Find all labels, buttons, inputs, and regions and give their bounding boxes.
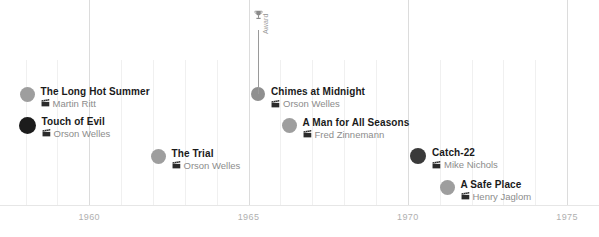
axis-line bbox=[0, 205, 599, 206]
gridline-1970 bbox=[408, 0, 409, 205]
timeline-event[interactable]: The Long Hot SummerMartin Ritt bbox=[20, 87, 150, 110]
event-director-name: Mike Nichols bbox=[444, 160, 498, 170]
gridline-1964 bbox=[217, 60, 218, 205]
event-director: Martin Ritt bbox=[41, 98, 150, 109]
timeline-event[interactable]: Catch-22Mike Nichols bbox=[410, 148, 498, 171]
event-director: Henry Jaglom bbox=[461, 191, 532, 202]
event-text: Chimes at MidnightOrson Welles bbox=[271, 87, 365, 110]
event-director-name: Martin Ritt bbox=[53, 99, 96, 109]
clapperboard-icon bbox=[271, 99, 280, 110]
event-director: Orson Welles bbox=[172, 160, 241, 171]
event-title: Catch-22 bbox=[432, 148, 498, 159]
event-dot[interactable] bbox=[19, 117, 36, 134]
event-text: The TrialOrson Welles bbox=[172, 149, 241, 172]
event-dot[interactable] bbox=[410, 148, 426, 164]
event-director-name: Henry Jaglom bbox=[473, 192, 532, 202]
clapperboard-icon bbox=[42, 128, 51, 139]
annotation-stem bbox=[258, 30, 259, 94]
event-director-name: Orson Welles bbox=[283, 99, 340, 109]
event-director-name: Orson Welles bbox=[54, 129, 111, 139]
gridline-1965 bbox=[249, 0, 250, 205]
event-title: A Safe Place bbox=[461, 180, 532, 191]
event-dot[interactable] bbox=[151, 149, 166, 164]
clapperboard-icon bbox=[172, 160, 181, 171]
event-title: A Man for All Seasons bbox=[303, 118, 410, 129]
event-text: A Man for All SeasonsFred Zinnemann bbox=[303, 118, 410, 141]
timeline-chart: The Long Hot SummerMartin RittTouch of E… bbox=[0, 0, 599, 237]
event-text: Catch-22Mike Nichols bbox=[432, 148, 498, 171]
trophy-icon bbox=[254, 9, 263, 27]
event-text: A Safe PlaceHenry Jaglom bbox=[461, 180, 532, 203]
event-dot[interactable] bbox=[440, 180, 455, 195]
clapperboard-icon bbox=[41, 98, 50, 109]
event-title: Chimes at Midnight bbox=[271, 87, 365, 98]
event-text: Touch of EvilOrson Welles bbox=[42, 117, 111, 140]
timeline-event[interactable]: A Man for All SeasonsFred Zinnemann bbox=[282, 118, 410, 141]
event-director: Orson Welles bbox=[42, 128, 111, 139]
event-title: Touch of Evil bbox=[42, 117, 111, 128]
event-title: The Long Hot Summer bbox=[41, 87, 150, 98]
clapperboard-icon bbox=[461, 191, 470, 202]
event-director-name: Orson Welles bbox=[184, 161, 241, 171]
event-director-name: Fred Zinnemann bbox=[315, 130, 385, 140]
event-text: The Long Hot SummerMartin Ritt bbox=[41, 87, 150, 110]
clapperboard-icon bbox=[303, 129, 312, 140]
timeline-event[interactable]: The TrialOrson Welles bbox=[151, 149, 241, 172]
event-title: The Trial bbox=[172, 149, 241, 160]
gridline-1962 bbox=[153, 60, 154, 205]
gridline-1963 bbox=[185, 60, 186, 205]
timeline-event[interactable]: Chimes at MidnightOrson Welles bbox=[251, 87, 365, 110]
event-director: Fred Zinnemann bbox=[303, 129, 410, 140]
event-director: Mike Nichols bbox=[432, 160, 498, 171]
tick-label-1975: 1975 bbox=[556, 212, 578, 222]
gridline-1961 bbox=[121, 60, 122, 205]
annotation-label: Award bbox=[262, 13, 269, 34]
timeline-event[interactable]: A Safe PlaceHenry Jaglom bbox=[440, 180, 532, 203]
event-director: Orson Welles bbox=[271, 99, 365, 110]
tick-label-1965: 1965 bbox=[238, 212, 260, 222]
clapperboard-icon bbox=[432, 160, 441, 171]
event-dot[interactable] bbox=[20, 87, 35, 102]
tick-label-1960: 1960 bbox=[78, 212, 100, 222]
gridline-1975 bbox=[567, 0, 568, 205]
timeline-event[interactable]: Touch of EvilOrson Welles bbox=[19, 117, 111, 140]
event-dot[interactable] bbox=[282, 118, 297, 133]
gridline-1974 bbox=[535, 60, 536, 205]
tick-label-1970: 1970 bbox=[397, 212, 419, 222]
